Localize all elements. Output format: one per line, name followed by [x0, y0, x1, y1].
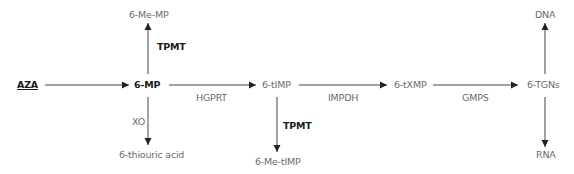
node-dna: DNA: [535, 10, 555, 20]
enzyme-tpmt-6mp: TPMT: [157, 42, 186, 52]
enzyme-tpmt-6timp: TPMT: [283, 121, 312, 131]
enzyme-impdh: IMPDH: [328, 93, 358, 103]
enzyme-hgprt: HGPRT: [196, 93, 227, 103]
node-6-txmp: 6-tXMP: [394, 80, 426, 90]
node-6-tgns: 6-TGNs: [527, 80, 560, 90]
enzyme-gmps: GMPS: [462, 93, 489, 103]
node-aza: AZA: [17, 80, 38, 90]
node-6-me-timp: 6-Me-tIMP: [255, 157, 301, 167]
node-rna: RNA: [536, 150, 556, 160]
node-6-me-mp: 6-Me-MP: [129, 10, 168, 20]
node-6-timp: 6-tIMP: [262, 80, 291, 90]
enzyme-xo: XO: [132, 117, 145, 127]
node-6-thiouric-acid: 6-thiouric acid: [119, 150, 184, 160]
node-6-mp: 6-MP: [134, 80, 160, 90]
